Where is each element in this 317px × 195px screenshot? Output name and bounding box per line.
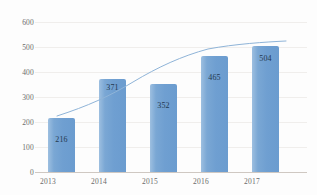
bar-2014 [99, 79, 126, 172]
bar-2013 [48, 118, 75, 172]
bar-label-2013: 216 [48, 136, 75, 144]
bar-2015 [150, 84, 177, 172]
bar-label-2016: 465 [201, 74, 228, 82]
y-tick-0: 0 [8, 169, 34, 177]
y-tick-300: 300 [8, 94, 34, 102]
y-tick-600: 600 [8, 19, 34, 27]
x-tick-2016: 2016 [179, 178, 223, 186]
x-tick-2014: 2014 [77, 178, 121, 186]
axis-baseline [35, 172, 307, 173]
y-tick-200: 200 [8, 119, 34, 127]
gridline-600 [35, 22, 307, 23]
y-tick-100: 100 [8, 144, 34, 152]
bar-chart: 216 371 352 465 504 600 500 400 300 200 … [0, 0, 317, 195]
y-tick-400: 400 [8, 69, 34, 77]
bar-label-2017: 504 [252, 55, 279, 63]
x-tick-2017: 2017 [230, 178, 274, 186]
bar-2017 [252, 46, 279, 172]
x-tick-2015: 2015 [128, 178, 172, 186]
y-tick-500: 500 [8, 44, 34, 52]
plot-area: 216 371 352 465 504 [35, 18, 307, 172]
bar-label-2014: 371 [99, 84, 126, 92]
x-tick-2013: 2013 [26, 178, 70, 186]
bar-label-2015: 352 [150, 102, 177, 110]
